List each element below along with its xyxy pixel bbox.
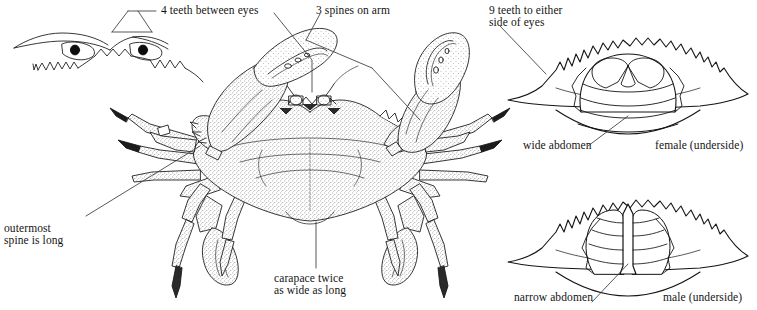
illustration-canvas <box>0 0 757 310</box>
label-9-teeth-line2: side of eyes <box>489 16 545 29</box>
label-male-underside: male (underside) <box>663 291 742 304</box>
eye-detail-drawing <box>14 33 203 82</box>
label-wide-abdomen: wide abdomen <box>523 139 592 152</box>
main-crab-drawing <box>110 28 510 298</box>
label-carapace-line2: as wide as long <box>274 284 346 297</box>
female-underside-drawing <box>508 38 748 134</box>
label-9-teeth-line1: 9 teeth to either <box>489 4 563 17</box>
label-female-underside: female (underside) <box>655 139 743 152</box>
label-outermost-spine-line1: outermost <box>4 222 51 235</box>
label-narrow-abdomen: narrow abdomen <box>514 291 593 304</box>
crab-identification-figure: 4 teeth between eyes 3 spines on arm 9 t… <box>0 0 757 310</box>
label-3-spines-on-arm: 3 spines on arm <box>316 4 390 17</box>
label-outermost-spine-line2: spine is long <box>4 234 63 247</box>
label-carapace-line1: carapace twice <box>274 272 343 285</box>
label-4-teeth-between-eyes: 4 teeth between eyes <box>161 4 258 17</box>
male-underside-drawing <box>508 200 748 296</box>
